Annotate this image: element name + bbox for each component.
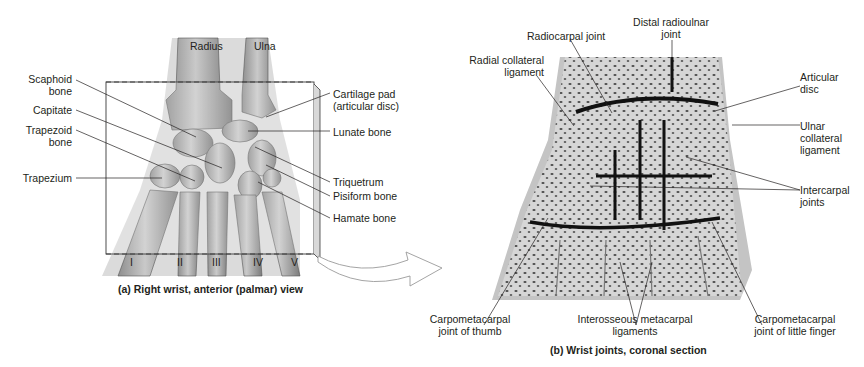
label-interosseous-metacarpal-ligaments: Interosseous metacarpal ligaments — [570, 313, 700, 337]
caption-panel-a: (a) Right wrist, anterior (palmar) view — [118, 283, 303, 295]
panel-b-art — [484, 39, 800, 325]
label-scaphoid-bone: Scaphoid bone — [28, 73, 72, 97]
caption-panel-b: (b) Wrist joints, coronal section — [550, 344, 707, 356]
label-hamate-bone: Hamate bone — [333, 212, 396, 224]
label-metacarpal-5: V — [291, 256, 298, 268]
label-metacarpal-2: II — [177, 256, 183, 268]
illustration-canvas — [0, 0, 864, 367]
label-carpometacarpal-joint-little-finger: Carpometacarpal joint of little finger — [735, 313, 855, 337]
label-cartilage-pad: Cartilage pad (articular disc) — [333, 88, 399, 112]
label-pisiform-bone: Pisiform bone — [333, 190, 397, 202]
label-radius: Radius — [190, 40, 223, 52]
label-ulnar-collateral-ligament: Ulnar collateral ligament — [800, 120, 842, 156]
label-carpometacarpal-joint-thumb: Carpometacarpal joint of thumb — [420, 313, 520, 337]
label-distal-radioulnar-joint: Distal radioulnar joint — [626, 16, 716, 40]
label-metacarpal-4: IV — [253, 256, 263, 268]
label-capitate: Capitate — [33, 104, 72, 116]
label-triquetrum: Triquetrum — [333, 176, 383, 188]
label-intercarpal-joints: Intercarpal joints — [800, 184, 850, 208]
label-lunate-bone: Lunate bone — [333, 126, 391, 138]
label-metacarpal-1: I — [130, 256, 133, 268]
label-radial-collateral-ligament: Radial collateral ligament — [469, 54, 544, 78]
label-articular-disc: Articular disc — [800, 71, 839, 95]
panel-a-art — [76, 38, 330, 276]
label-ulna: Ulna — [254, 40, 276, 52]
label-radiocarpal-joint: Radiocarpal joint — [527, 30, 605, 42]
label-trapezium: Trapezium — [23, 172, 72, 184]
label-metacarpal-3: III — [212, 256, 221, 268]
label-trapezoid-bone: Trapezoid bone — [26, 124, 72, 148]
connector-arrow — [318, 252, 442, 286]
